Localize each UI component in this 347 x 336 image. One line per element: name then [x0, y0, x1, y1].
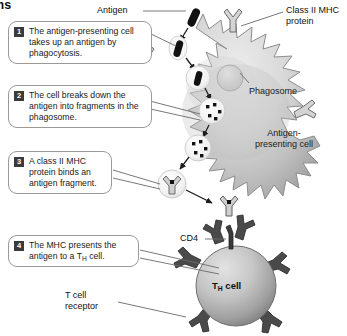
mhc-loaded-vesicle — [158, 170, 186, 198]
callout-step-4: 4 The MHC presents the antigen to a TH c… — [8, 235, 139, 267]
step-text-4: The MHC presents the antigen to a TH cel… — [29, 240, 132, 262]
surface-mhc-presenting — [220, 196, 238, 216]
leader-class-ii-mhc — [241, 12, 283, 26]
mhc-binding-arrow — [180, 157, 189, 169]
label-th-cell: TH cell — [212, 280, 241, 292]
step-badge-3: 3 — [14, 157, 24, 167]
label-apc-line2: presenting cell — [240, 139, 328, 150]
label-tcr-line1: T cell — [65, 290, 98, 301]
step-badge-1: 1 — [14, 27, 24, 37]
label-apc-line1: Antigen- — [240, 128, 328, 139]
figure-container: ms 1 The antigen-presenting cell takes u… — [0, 0, 347, 336]
transport-to-surface-arrow — [186, 190, 212, 203]
surface-mhc-top-right — [224, 9, 242, 32]
step-badge-2: 2 — [14, 91, 24, 101]
step-badge-4: 4 — [14, 241, 24, 251]
label-class-ii-mhc-line1: Class II MHC — [286, 5, 339, 16]
callout-step-3: 3 A class II MHC protein binds an antige… — [8, 151, 112, 194]
label-cd4: CD4 — [180, 233, 198, 244]
step-text-3: A class II MHC protein binds an antigen … — [29, 156, 105, 189]
leader-tcr — [118, 302, 186, 317]
label-th-cell-before: T — [212, 280, 218, 291]
label-antigen-presenting-cell: Antigen- presenting cell — [240, 128, 328, 150]
label-th-cell-after: cell — [223, 280, 242, 291]
antigen-rod-at-membrane — [169, 36, 187, 60]
leader-step-3 — [113, 170, 160, 184]
heading-fragment: ms — [0, 0, 11, 12]
step-text-2: The cell breaks down the antigen into fr… — [29, 90, 145, 123]
label-antigen: Antigen — [97, 5, 128, 16]
step-4-text-after: cell. — [87, 251, 105, 261]
label-class-ii-mhc: Class II MHC protein — [286, 5, 339, 27]
callout-step-1: 1 The antigen-presenting cell takes up a… — [8, 21, 152, 64]
step-4-subscript: H — [82, 255, 87, 262]
label-class-ii-mhc-line2: protein — [286, 16, 339, 27]
label-phagosome: Phagosome — [249, 86, 297, 97]
leader-step-3b — [113, 178, 160, 189]
label-tcr-line2: receptor — [65, 301, 98, 312]
antigen-in-phagosome — [186, 66, 210, 90]
step-text-1: The antigen-presenting cell takes up an … — [29, 26, 145, 59]
fragment-vesicle-upper — [199, 98, 225, 124]
cd4-coreceptor — [226, 225, 233, 249]
callout-step-2: 2 The cell breaks down the antigen into … — [8, 85, 152, 128]
label-th-cell-subscript: H — [218, 285, 223, 292]
label-t-cell-receptor: T cell receptor — [65, 290, 98, 312]
phagosome-vesicle — [217, 65, 243, 91]
